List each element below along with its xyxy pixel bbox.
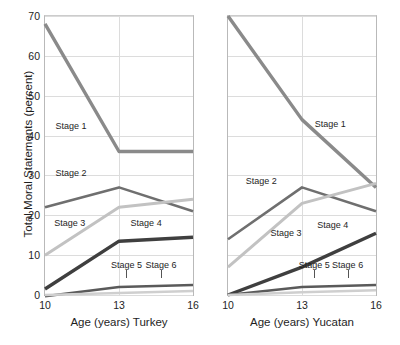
x-tick-label-10: 10	[39, 299, 51, 311]
y-tick-label-70: 70	[28, 10, 40, 22]
plot-area-yucatan: 101316Age (years) YucatanStage 1Stage 2S…	[227, 15, 377, 296]
series-lines-yucatan	[228, 16, 376, 295]
series-line-stage-1	[45, 24, 193, 152]
chart-panel-yucatan: 101316Age (years) YucatanStage 1Stage 2S…	[205, 0, 400, 345]
y-tick-label-50: 50	[28, 90, 40, 102]
x-tick-label-13: 13	[113, 299, 125, 311]
series-label-stage-3: Stage 3	[54, 218, 85, 228]
y-tick-label-10: 10	[28, 249, 40, 261]
x-tick-label-16: 16	[370, 299, 382, 311]
series-label-stage-6: Stage 6	[332, 260, 363, 270]
series-label-stage-3: Stage 3	[270, 228, 301, 238]
series-lines-turkey	[45, 16, 193, 295]
series-label-stage-1: Stage 1	[55, 121, 86, 131]
x-axis-title-yucatan: Age (years) Yucatan	[250, 316, 354, 328]
leader-line	[161, 270, 162, 278]
leader-line	[126, 270, 127, 278]
x-tick-label-10: 10	[222, 299, 234, 311]
x-axis-title-turkey: Age (years) Turkey	[70, 316, 167, 328]
leader-line	[314, 270, 315, 278]
series-line-stage-2	[228, 187, 376, 239]
y-tick-label-60: 60	[28, 50, 40, 62]
chart-panel-turkey: 010203040506070101316Age (years) TurkeyS…	[0, 0, 205, 345]
y-tick-label-30: 30	[28, 169, 40, 181]
series-label-stage-1: Stage 1	[315, 119, 346, 129]
y-tick-label-40: 40	[28, 130, 40, 142]
series-line-stage-3	[228, 183, 376, 267]
series-label-stage-4: Stage 4	[317, 220, 348, 230]
series-label-stage-2: Stage 2	[246, 176, 277, 186]
leader-line	[348, 270, 349, 278]
x-tick-label-16: 16	[187, 299, 199, 311]
series-label-stage-5: Stage 5	[111, 260, 142, 270]
series-label-stage-6: Stage 6	[145, 260, 176, 270]
plot-area-turkey: 010203040506070101316Age (years) TurkeyS…	[44, 15, 194, 296]
series-label-stage-5: Stage 5	[299, 260, 330, 270]
moral-stages-chart: Total Moral Statements (percent) 0102030…	[0, 0, 400, 345]
series-label-stage-2: Stage 2	[55, 168, 86, 178]
series-label-stage-4: Stage 4	[131, 218, 162, 228]
x-tick-label-13: 13	[296, 299, 308, 311]
y-tick-label-20: 20	[28, 209, 40, 221]
series-line-stage-1	[228, 16, 376, 187]
